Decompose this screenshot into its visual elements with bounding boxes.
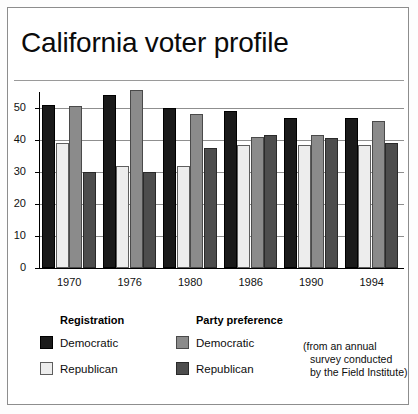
x-axis-tick-label: 1986 <box>221 276 281 288</box>
y-axis-tick-label: 30 <box>0 166 26 177</box>
legend-swatch <box>176 362 189 375</box>
legend-label: Republican <box>60 363 118 376</box>
y-axis-tick-mark <box>35 204 40 205</box>
chart-figure: California voter profile (from an annual… <box>0 0 418 414</box>
legend-label: Republican <box>196 363 254 376</box>
y-axis-tick-mark <box>35 236 40 237</box>
x-axis-tick-label: 1976 <box>100 276 160 288</box>
source-note-line: by the Field Institute) <box>303 366 409 379</box>
source-note-line: (from an annual <box>303 340 409 353</box>
y-axis-tick-mark <box>35 172 40 173</box>
legend-swatch <box>40 362 53 375</box>
y-axis-tick-label: 40 <box>0 134 26 145</box>
y-axis-tick-mark <box>35 268 40 269</box>
y-axis-tick-label: 10 <box>0 230 26 241</box>
x-axis-tick-label: 1994 <box>342 276 402 288</box>
chart-legend: (from an annualsurvey conductedby the Fi… <box>0 0 418 414</box>
x-axis-tick-label: 1980 <box>160 276 220 288</box>
x-axis-tick-label: 1970 <box>39 276 99 288</box>
legend-label: Democratic <box>196 337 254 350</box>
legend-swatch <box>176 336 189 349</box>
x-axis-tick-label: 1990 <box>281 276 341 288</box>
legend-swatch <box>40 336 53 349</box>
y-axis-tick-mark <box>35 140 40 141</box>
source-note-line: survey conducted <box>303 353 409 366</box>
y-axis-tick-label: 0 <box>0 262 26 273</box>
legend-group-heading: Registration <box>60 314 124 326</box>
legend-group-heading: Party preference <box>196 314 283 326</box>
source-note: (from an annualsurvey conductedby the Fi… <box>303 340 409 379</box>
y-axis-tick-label: 20 <box>0 198 26 209</box>
y-axis-tick-mark <box>35 108 40 109</box>
y-axis-tick-label: 50 <box>0 102 26 113</box>
legend-label: Democratic <box>60 337 118 350</box>
